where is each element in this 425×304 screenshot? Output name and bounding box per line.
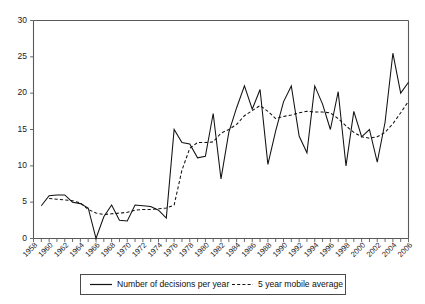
x-tick-label: 1994	[302, 241, 320, 259]
y-tick-label: 5	[22, 196, 27, 206]
x-tick-label: 2006	[396, 241, 414, 259]
legend-label: 5 year mobile average	[258, 279, 343, 289]
x-tick-label: 1986	[240, 241, 258, 259]
x-tick-label: 1990	[271, 241, 289, 259]
series-five-year-mobile-average	[49, 101, 408, 214]
x-tick-label: 1980	[193, 241, 211, 259]
x-tick-label: 1958	[21, 241, 39, 259]
y-tick-label: 30	[18, 15, 28, 25]
chart-container: 051015202530 195819601962196419661968197…	[0, 0, 425, 304]
y-tick-label: 10	[18, 160, 28, 170]
y-tick-label: 0	[22, 233, 27, 243]
series-decisions-per-year	[41, 53, 408, 238]
x-tick-label: 1988	[255, 241, 273, 259]
x-tick-label: 1992	[286, 241, 304, 259]
x-tick-label: 1960	[36, 241, 54, 259]
y-tick-label: 25	[18, 51, 28, 61]
y-axis: 051015202530	[18, 15, 34, 243]
x-tick-label: 2002	[365, 241, 383, 259]
x-tick-label: 1972	[130, 241, 148, 259]
x-tick-label: 1984	[224, 241, 242, 259]
legend-label: Number of decisions per year	[117, 279, 229, 289]
line-chart: 051015202530 195819601962196419661968197…	[0, 0, 425, 304]
x-tick-label: 1996	[318, 241, 336, 259]
chart-legend: Number of decisions per year5 year mobil…	[81, 275, 346, 295]
x-axis: 1958196019621964196619681970197219741976…	[21, 239, 414, 259]
x-tick-label: 2004	[380, 241, 398, 259]
x-tick-label: 1970	[115, 241, 133, 259]
x-tick-label: 1962	[52, 241, 70, 259]
x-tick-label: 1968	[99, 241, 117, 259]
x-tick-label: 1964	[68, 241, 86, 259]
x-tick-label: 1978	[177, 241, 195, 259]
x-tick-label: 1974	[146, 241, 164, 259]
y-tick-label: 15	[18, 124, 28, 134]
x-tick-label: 1982	[208, 241, 226, 259]
x-tick-label: 1966	[83, 241, 101, 259]
x-tick-label: 1998	[333, 241, 351, 259]
y-tick-label: 20	[18, 87, 28, 97]
x-tick-label: 1976	[161, 241, 179, 259]
x-tick-label: 2000	[349, 241, 367, 259]
